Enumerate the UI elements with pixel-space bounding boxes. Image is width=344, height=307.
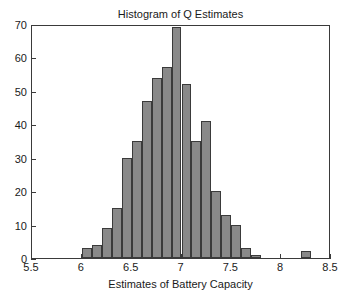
- histogram-figure: Histogram of Q Estimates 010203040506070…: [0, 0, 344, 307]
- x-axis-tick-mark: [330, 254, 331, 259]
- x-axis-tick-mark: [181, 254, 182, 259]
- y-axis-tick-label: 30: [0, 153, 27, 165]
- y-axis-tick-mark: [31, 92, 36, 93]
- histogram-bar: [241, 248, 251, 258]
- histogram-bar: [201, 121, 211, 258]
- y-axis-tick-mark: [31, 25, 36, 26]
- histogram-bar: [102, 228, 112, 258]
- histogram-bar: [132, 141, 142, 258]
- histogram-bar: [152, 78, 162, 259]
- histogram-bar: [112, 208, 122, 258]
- histogram-bar: [162, 67, 172, 258]
- chart-title: Histogram of Q Estimates: [31, 8, 330, 20]
- x-axis-tick-label: 8.5: [322, 261, 337, 273]
- histogram-bar: [251, 255, 261, 258]
- histogram-bar: [211, 191, 221, 258]
- bars-container: [32, 26, 329, 258]
- y-axis-tick-mark: [31, 259, 36, 260]
- y-axis-tick-mark: [31, 192, 36, 193]
- y-axis-tick-mark: [31, 159, 36, 160]
- histogram-bar: [92, 245, 102, 258]
- histogram-bar: [301, 251, 311, 258]
- x-axis-tick-mark: [131, 254, 132, 259]
- x-axis-label: Estimates of Battery Capacity: [31, 278, 330, 290]
- x-axis-tick-label: 6: [78, 261, 84, 273]
- histogram-bar: [142, 101, 152, 258]
- x-axis-tick-label: 5.5: [23, 261, 38, 273]
- x-axis-tick-label: 7.5: [223, 261, 238, 273]
- histogram-bar: [182, 84, 192, 258]
- histogram-bar: [82, 248, 92, 258]
- x-axis-tick-label: 8: [277, 261, 283, 273]
- histogram-bar: [122, 158, 132, 258]
- histogram-bar: [191, 141, 201, 258]
- y-axis-tick-label: 10: [0, 220, 27, 232]
- histogram-bar: [221, 215, 231, 258]
- x-axis-tick-mark: [81, 254, 82, 259]
- y-axis-tick-label: 70: [0, 19, 27, 31]
- y-axis-tick-label: 20: [0, 186, 27, 198]
- histogram-bar: [231, 225, 241, 258]
- y-axis-tick-mark: [31, 58, 36, 59]
- x-axis-tick-mark: [31, 254, 32, 259]
- x-axis-tick-label: 7: [177, 261, 183, 273]
- plot-area: [31, 25, 330, 259]
- y-axis-tick-label: 40: [0, 119, 27, 131]
- y-axis-tick-label: 60: [0, 52, 27, 64]
- histogram-bar: [172, 27, 182, 258]
- x-axis-tick-mark: [280, 254, 281, 259]
- y-axis-tick-mark: [31, 125, 36, 126]
- y-axis-tick-label: 50: [0, 86, 27, 98]
- x-axis-tick-label: 6.5: [123, 261, 138, 273]
- y-axis-tick-mark: [31, 226, 36, 227]
- x-axis-tick-mark: [230, 254, 231, 259]
